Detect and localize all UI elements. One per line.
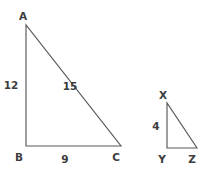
vertex-label-a: A	[19, 10, 28, 22]
vertex-label-c: C	[112, 151, 120, 163]
side-label-bc: 9	[61, 153, 68, 165]
figure-canvas: A B C 12 15 9 X Y Z 4	[0, 0, 211, 171]
vertex-label-y: Y	[157, 153, 166, 165]
triangle-xyz: X Y Z 4	[152, 89, 197, 165]
triangle-abc: A B C 12 15 9	[4, 10, 121, 165]
geometry-figure: A B C 12 15 9 X Y Z 4	[0, 0, 211, 171]
vertex-label-z: Z	[188, 153, 196, 165]
vertex-label-b: B	[15, 151, 23, 163]
vertex-label-x: X	[159, 89, 167, 101]
side-label-ab: 12	[4, 79, 19, 91]
side-label-xy: 4	[152, 120, 159, 132]
side-label-ac: 15	[63, 80, 78, 92]
triangle-xyz-outline	[167, 103, 197, 148]
